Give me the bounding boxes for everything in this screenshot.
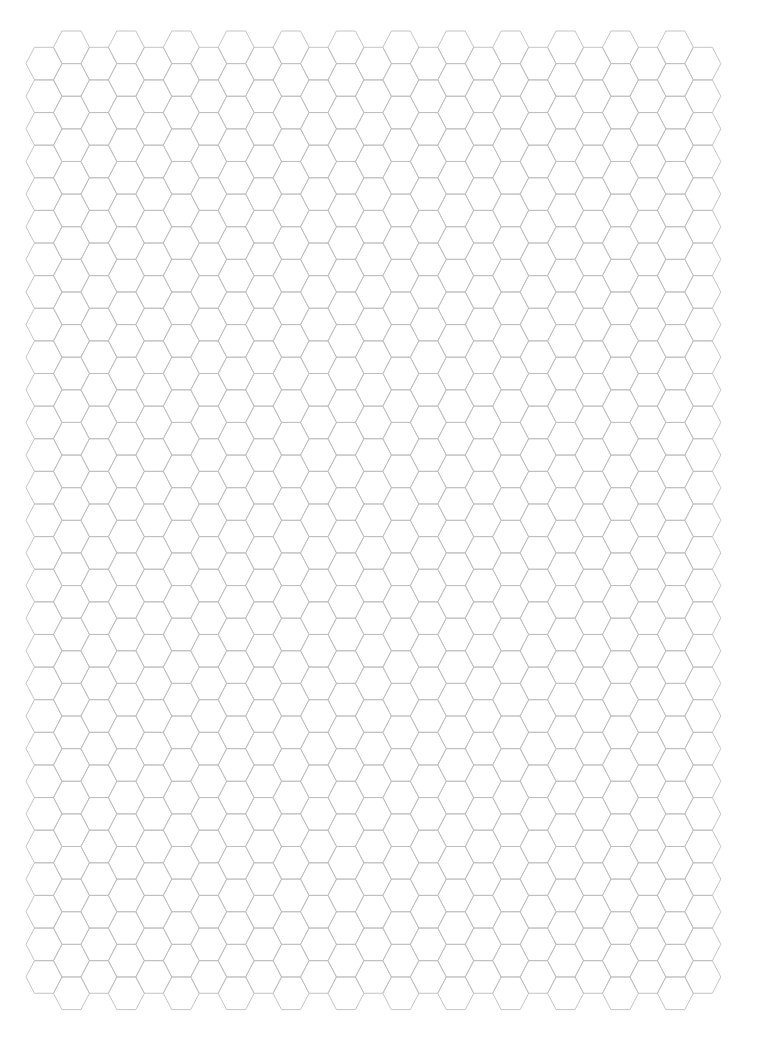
hex-grid-lines [26, 31, 721, 1010]
hex-cells [26, 31, 721, 1010]
hex-graph-paper-page [0, 0, 765, 1050]
hexagonal-grid [0, 0, 765, 1050]
